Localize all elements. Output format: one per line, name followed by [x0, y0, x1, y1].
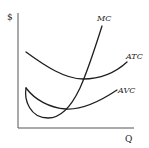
avc-label: AVC: [117, 86, 135, 95]
atc-label: ATC: [125, 52, 143, 61]
y-axis-label: $: [7, 12, 13, 22]
cost-curves-chart: $ Q MC ATC AVC: [0, 0, 149, 148]
avc-curve: [26, 88, 117, 109]
mc-label: MC: [96, 14, 111, 23]
x-axis-label: Q: [125, 134, 132, 144]
atc-curve: [26, 52, 127, 79]
